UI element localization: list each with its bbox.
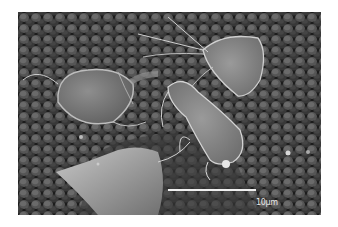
scale-bar-label: 10µm — [256, 198, 278, 207]
micrograph: 10µm — [18, 12, 321, 215]
scale-bar — [168, 189, 256, 191]
sem-image — [18, 12, 321, 215]
